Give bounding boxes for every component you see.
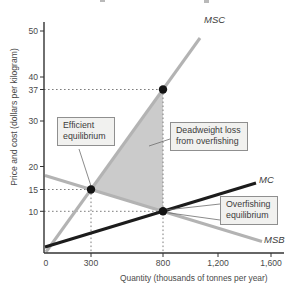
- msc-at-800-point: [159, 85, 167, 93]
- msb-curve-label: MSB: [264, 234, 285, 245]
- y-tick-20: 20: [18, 162, 38, 172]
- x-tick-0: 0: [28, 258, 64, 268]
- x-tick-300: 300: [73, 258, 109, 268]
- x-tick-800: 800: [145, 258, 181, 268]
- overfishing-equilibrium-point: [159, 207, 167, 215]
- x-axis-label: Quantity (thousands of tonnes per year): [120, 273, 298, 283]
- efficient-equilibrium-point: [87, 185, 95, 193]
- overfishing-chart: Price and cost (dollars per kilogram) Qu…: [0, 0, 301, 294]
- x-tick-1200: 1,200: [200, 258, 236, 268]
- x-tick-1600: 1,600: [253, 258, 289, 268]
- chart-canvas: [0, 0, 301, 294]
- efficient-equilibrium-callout: Efficient equilibrium: [57, 117, 115, 146]
- mc-curve-label: MC: [259, 174, 274, 185]
- y-tick-30: 30: [18, 116, 38, 126]
- deadweight-loss-callout: Deadweight loss from overfishing: [170, 122, 248, 151]
- cropped-title-artifact: [100, 0, 209, 3]
- y-tick-37: 37: [18, 85, 38, 95]
- y-tick-50: 50: [18, 26, 38, 36]
- y-tick-10: 10: [18, 207, 38, 217]
- msc-curve-label: MSC: [204, 14, 225, 25]
- y-tick-40: 40: [18, 72, 38, 82]
- y-tick-15: 15: [18, 185, 38, 195]
- overfishing-equilibrium-callout: Overfishing equilibrium: [220, 196, 278, 225]
